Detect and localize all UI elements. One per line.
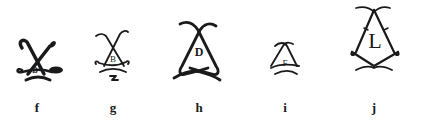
figure-caption-j: j [364, 100, 384, 116]
monogram-figure-h: D h [160, 0, 240, 123]
monogram-figure-g: B g [80, 0, 160, 123]
figure-caption-i: i [275, 100, 295, 116]
monogram-figure-i: F i [245, 0, 325, 123]
monogram-letter-g: B [110, 54, 116, 64]
figure-caption-f: f [27, 100, 47, 116]
monogram-ornament-j-icon: L [330, 0, 423, 100]
monogram-ornament-h-icon: D [160, 0, 240, 100]
monogram-ornament-f-icon: B [0, 0, 80, 100]
monogram-letter-i: F [282, 58, 287, 68]
monogram-figure-j: L j [330, 0, 423, 123]
figure-caption-g: g [103, 100, 123, 116]
monogram-letter-j: L [368, 28, 381, 53]
monogram-figure-f: B f [0, 0, 80, 123]
monogram-letter-h: D [195, 45, 204, 59]
monogram-letter-f: B [32, 66, 38, 75]
monogram-ornament-i-icon: F [245, 0, 325, 100]
monogram-ornament-g-icon: B [80, 0, 160, 100]
figure-caption-h: h [189, 100, 209, 116]
